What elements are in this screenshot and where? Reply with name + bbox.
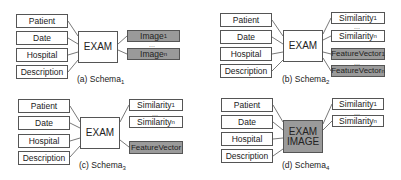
- exam-entity: EXAM: [78, 31, 118, 63]
- entity-label: Similarity: [339, 32, 373, 41]
- description-entity: Description: [220, 64, 272, 78]
- entity-label: Image: [140, 32, 164, 41]
- entity-label: Description: [21, 68, 64, 77]
- description-entity: Description: [221, 149, 273, 163]
- entity-label: Date: [35, 119, 53, 128]
- caption-text: (d) Schema: [282, 160, 326, 170]
- entity-label: Date: [238, 118, 256, 127]
- entity-label: FeatureVector: [131, 144, 181, 152]
- entity-label: Similarity: [339, 14, 373, 23]
- entity-label: Hospital: [232, 135, 263, 144]
- entity-label: Description: [225, 67, 268, 76]
- hospital-entity: Hospital: [220, 47, 272, 61]
- caption-schema-3: (c) Schema3: [79, 160, 126, 171]
- patient-entity: Patient: [16, 14, 68, 28]
- entity-label: Patient: [234, 101, 260, 110]
- description-entity: Description: [18, 151, 70, 165]
- similarity-n-entity: Similarityn: [129, 116, 183, 128]
- caption-subscript: 3: [122, 165, 125, 171]
- entity-label: EXAM: [86, 128, 114, 138]
- entity-subscript: 1: [374, 15, 377, 21]
- ellipsis: ...: [354, 23, 360, 30]
- entity-label: Similarity: [339, 100, 373, 109]
- entity-subscript: n: [374, 33, 377, 39]
- caption-text: (a) Schema: [77, 74, 121, 84]
- entity-subscript: n: [381, 68, 384, 74]
- entity-label: Hospital: [29, 137, 60, 146]
- entity-label: Similarity: [137, 118, 171, 127]
- featurevector-entity: FeatureVector: [129, 141, 183, 154]
- image-n-entity: Imagen: [127, 48, 180, 60]
- entity-subscript: 1: [381, 51, 384, 57]
- entity-label: EXAM: [84, 42, 112, 52]
- entity-subscript: 1: [172, 102, 175, 108]
- caption-text: (b) Schema: [282, 74, 326, 84]
- entity-label: EXAM: [289, 41, 317, 51]
- entity-label: Date: [237, 33, 255, 42]
- date-entity: Date: [220, 30, 272, 44]
- patient-entity: Patient: [220, 13, 272, 27]
- entity-label: Hospital: [231, 50, 262, 59]
- hospital-entity: Hospital: [18, 134, 70, 148]
- caption-subscript: 1: [121, 79, 124, 85]
- exam-entity: EXAM: [80, 117, 120, 149]
- entity-subscript: n: [374, 118, 377, 124]
- entity-label: EXAM: [289, 127, 317, 137]
- exam-entity: EXAM: [283, 30, 323, 62]
- entity-label: FeatureVector: [331, 67, 381, 75]
- patient-entity: Patient: [18, 99, 70, 113]
- entity-label: Date: [33, 34, 51, 43]
- caption-schema-2: (b) Schema2: [282, 74, 329, 85]
- date-entity: Date: [16, 31, 68, 45]
- hospital-entity: Hospital: [221, 132, 273, 146]
- entity-subscript: n: [164, 51, 167, 57]
- caption-text: (c) Schema: [79, 160, 122, 170]
- caption-subscript: 4: [326, 165, 329, 171]
- entity-subscript: 1: [164, 33, 167, 39]
- similarity-n-entity: Similarityn: [332, 115, 384, 127]
- entity-label: FeatureVector: [331, 50, 381, 58]
- description-entity: Description: [16, 65, 68, 79]
- patient-entity: Patient: [221, 98, 273, 112]
- entity-label: Description: [226, 152, 269, 161]
- date-entity: Date: [221, 115, 273, 129]
- hospital-entity: Hospital: [16, 48, 68, 62]
- entity-label: Patient: [233, 16, 259, 25]
- caption-schema-1: (a) Schema1: [77, 74, 124, 85]
- similarity-n-entity: Similarityn: [331, 30, 385, 42]
- entity-label: Patient: [29, 17, 55, 26]
- entity-label: Similarity: [137, 101, 171, 110]
- caption-subscript: 2: [326, 79, 329, 85]
- entity-subscript: n: [172, 119, 175, 125]
- caption-schema-4: (d) Schema4: [282, 160, 329, 171]
- entity-label: Description: [23, 154, 66, 163]
- entity-label: Image: [140, 50, 164, 59]
- exam-image-entity: EXAM IMAGE: [283, 120, 323, 153]
- entity-label: IMAGE: [287, 137, 319, 147]
- ellipsis: ...: [149, 41, 155, 48]
- featurevector-n-entity: FeatureVectorn: [331, 65, 385, 77]
- entity-label: Hospital: [27, 51, 58, 60]
- entity-label: Patient: [31, 102, 57, 111]
- date-entity: Date: [18, 116, 70, 130]
- entity-subscript: 1: [374, 101, 377, 107]
- entity-label: Similarity: [339, 117, 373, 126]
